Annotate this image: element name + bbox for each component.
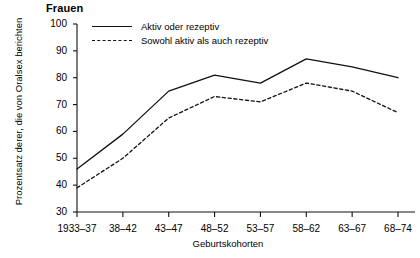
legend-label-1: Sowohl aktiv als auch rezeptiv: [141, 35, 268, 46]
x-axis-label: Geburtskohorten: [193, 238, 264, 249]
y-axis-tick-label: 70: [41, 100, 67, 110]
legend-item-0: Aktiv oder rezeptiv: [92, 19, 268, 33]
y-axis-tick-label: 30: [41, 207, 67, 217]
series-line-0: [77, 59, 398, 169]
y-axis-tick-label: 40: [41, 180, 67, 190]
legend-item-1: Sowohl aktiv als auch rezeptiv: [92, 33, 268, 47]
legend: Aktiv oder rezeptiv Sowohl aktiv als auc…: [92, 19, 268, 47]
series-line-1: [77, 83, 398, 188]
y-axis-tick-label: 90: [41, 46, 67, 56]
legend-line-solid-icon: [92, 26, 132, 27]
y-axis-tick-label: 50: [41, 153, 67, 163]
y-axis-tick-label: 80: [41, 73, 67, 83]
y-axis-tick-label: 100: [41, 19, 67, 29]
x-axis-label-wrap: Geburtskohorten: [0, 238, 420, 249]
y-axis-tick-label: 60: [41, 126, 67, 136]
x-axis-tick-label: 68–74: [368, 224, 420, 234]
chart-container: Frauen Prozentsatz derer, die von Oralse…: [0, 0, 420, 258]
legend-line-dashed-icon: [92, 40, 132, 41]
legend-label-0: Aktiv oder rezeptiv: [141, 21, 219, 32]
